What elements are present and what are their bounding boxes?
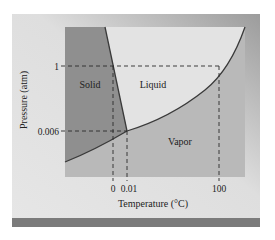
bottom-bar [12, 218, 260, 227]
phase-diagram-figure: Solid Liquid Vapor 1 0.006 Pressure (atm… [0, 0, 275, 240]
ytick-0006: 0.006 [38, 127, 60, 137]
liquid-label: Liquid [140, 79, 167, 90]
x-axis-label: Temperature (°C) [118, 198, 188, 210]
plot-area [61, 27, 245, 181]
xtick-0: 0 [111, 184, 116, 194]
xtick-001: 0.01 [121, 184, 138, 194]
y-axis-label: Pressure (atm) [18, 71, 30, 129]
vapor-label: Vapor [168, 136, 193, 147]
ytick-1: 1 [54, 62, 59, 72]
xtick-100: 100 [212, 184, 227, 194]
solid-label: Solid [79, 79, 100, 90]
